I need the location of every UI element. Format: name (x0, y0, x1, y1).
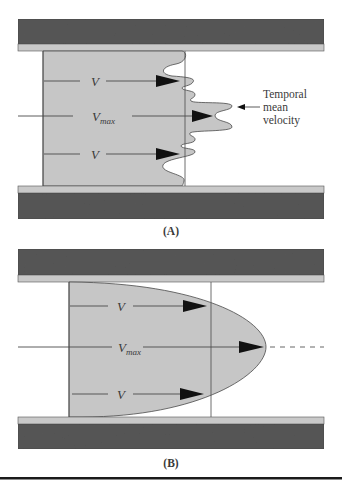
pipe-wall-top (18, 19, 324, 44)
pipe-wall-lining-top (18, 275, 324, 282)
bottom-rule (0, 477, 342, 480)
pipe-wall-bottom (18, 424, 324, 449)
laminar-velocity-profile (69, 282, 266, 417)
temporal-mean-annotation: Temporal mean velocity (237, 88, 307, 127)
panel-label-a: (A) (163, 225, 179, 238)
svg-text:velocity: velocity (263, 114, 300, 127)
pipe-wall-bottom (18, 193, 324, 219)
pipe-wall-top (18, 249, 324, 275)
flow-diagram: V Vmax V Temporal mean velocity (A) (0, 0, 342, 488)
panel-label-b: (B) (163, 457, 179, 470)
panel-b: V Vmax V (B) (18, 249, 324, 470)
panel-a: V Vmax V Temporal mean velocity (A) (18, 19, 324, 238)
pipe-wall-lining-bottom (18, 186, 324, 193)
pipe-wall-lining-bottom (18, 417, 324, 424)
arrow-left-icon (237, 104, 245, 110)
svg-text:mean: mean (263, 101, 288, 113)
pipe-wall-lining-top (18, 44, 324, 51)
svg-text:Temporal: Temporal (263, 88, 307, 101)
